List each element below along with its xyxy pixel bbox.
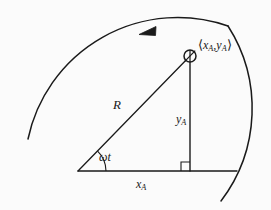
angle-label: ωt	[99, 151, 111, 163]
direction-arrowhead-icon	[139, 27, 156, 36]
circle-arc-path	[28, 18, 228, 139]
y-component-label: yA	[176, 113, 186, 127]
point-coordinates-label: ⟨xA,yA⟩	[198, 38, 232, 53]
coords-close-bracket: ⟩	[227, 37, 232, 52]
x-component-label: xA	[136, 178, 146, 192]
x-component-label-subscript: A	[141, 183, 146, 192]
y-component-label-subscript: A	[181, 118, 186, 127]
radius-label: R	[113, 98, 121, 111]
right-angle-marker	[181, 162, 190, 171]
radius-line	[78, 56, 190, 171]
figure-container: R yA xA ωt ⟨xA,yA⟩	[0, 0, 271, 210]
